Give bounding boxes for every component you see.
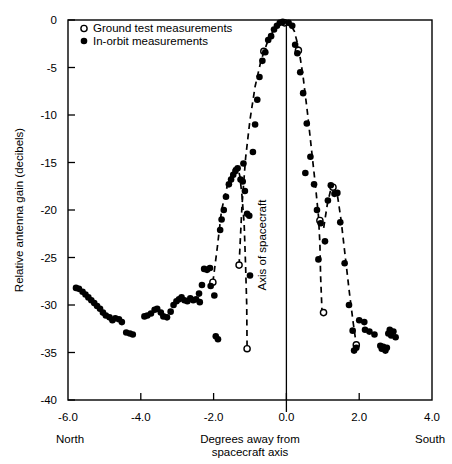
in-orbit-point — [207, 283, 214, 290]
in-orbit-point — [259, 58, 266, 65]
in-orbit-point — [303, 120, 310, 127]
y-tick-label: -25 — [40, 252, 57, 264]
chart-legend: Ground test measurementsIn-orbit measure… — [81, 22, 233, 47]
in-orbit-point — [297, 69, 304, 76]
ground-test-point — [320, 310, 326, 316]
ground-test-point — [236, 262, 242, 268]
data-points — [73, 19, 399, 354]
in-orbit-point — [240, 160, 247, 167]
in-orbit-point — [328, 182, 335, 189]
in-orbit-point — [215, 336, 222, 343]
in-orbit-point — [337, 219, 344, 226]
in-orbit-point — [234, 165, 241, 172]
in-orbit-point — [211, 292, 218, 299]
in-orbit-point — [217, 227, 224, 234]
in-orbit-point — [302, 170, 309, 177]
in-orbit-point — [262, 49, 269, 56]
in-orbit-point — [250, 149, 257, 156]
in-orbit-point — [351, 347, 358, 354]
in-orbit-point — [247, 272, 254, 279]
in-orbit-point — [346, 302, 353, 309]
in-orbit-point — [218, 216, 225, 223]
in-orbit-point — [129, 331, 136, 338]
fit-curve-segment — [213, 167, 247, 348]
y-tick-label: -40 — [40, 394, 57, 406]
x-tick-label: 0.0 — [278, 411, 294, 423]
in-orbit-point — [294, 50, 301, 57]
y-tick-label: -5 — [47, 62, 57, 74]
y-axis-tick-labels: 0-5-10-15-20-25-30-35-40 — [40, 14, 57, 406]
in-orbit-point — [315, 256, 322, 263]
ground-test-point — [244, 346, 250, 352]
in-orbit-point — [246, 212, 253, 219]
x-tick-label: 4.0 — [424, 411, 440, 423]
in-orbit-point — [119, 319, 126, 326]
plot-frame — [68, 20, 432, 400]
in-orbit-point — [256, 74, 263, 81]
in-orbit-point — [207, 265, 214, 272]
in-orbit-point — [254, 97, 261, 104]
in-orbit-point — [239, 178, 246, 185]
in-orbit-point — [314, 207, 321, 214]
in-orbit-point — [279, 19, 286, 26]
in-orbit-point — [317, 220, 324, 227]
in-orbit-point — [268, 33, 275, 40]
in-orbit-point — [196, 299, 203, 306]
in-orbit-point — [384, 344, 391, 351]
north-label: North — [56, 433, 84, 445]
x-tick-label: -4.0 — [131, 411, 151, 423]
in-orbit-point — [292, 41, 299, 48]
x-axis-title-line1: Degrees away from — [200, 433, 300, 445]
in-orbit-point — [371, 331, 378, 338]
in-orbit-point — [361, 319, 368, 326]
y-tick-label: -30 — [40, 299, 57, 311]
x-axis-title-line2: spacecraft axis — [212, 446, 289, 458]
chart-svg: 0-5-10-15-20-25-30-35-40 -6.0-4.0-2.00.0… — [0, 0, 452, 464]
antenna-gain-chart-figure: 0-5-10-15-20-25-30-35-40 -6.0-4.0-2.00.0… — [0, 0, 452, 464]
spacecraft-axis-label: Axis of spacecraft — [256, 199, 268, 291]
plot-border — [68, 20, 432, 400]
y-tick-label: -20 — [40, 204, 57, 216]
fit-curve-segment — [320, 187, 356, 345]
in-orbit-point — [196, 290, 203, 297]
in-orbit-point — [341, 260, 348, 267]
in-orbit-point — [334, 190, 341, 197]
in-orbit-point — [322, 238, 329, 245]
in-orbit-point — [242, 188, 249, 195]
legend-marker-ground-test — [81, 25, 87, 31]
legend-label-in-orbit: In-orbit measurements — [93, 35, 208, 47]
x-tick-label: -2.0 — [204, 411, 224, 423]
y-tick-label: 0 — [51, 14, 57, 26]
in-orbit-point — [164, 314, 171, 321]
y-tick-label: -15 — [40, 157, 57, 169]
in-orbit-point — [252, 121, 259, 128]
in-orbit-point — [390, 328, 397, 335]
in-orbit-point — [199, 282, 206, 289]
x-tick-label: -6.0 — [58, 411, 78, 423]
in-orbit-point — [307, 154, 314, 161]
in-orbit-point — [349, 327, 356, 334]
south-label: South — [415, 433, 445, 445]
fit-curve-segment — [239, 22, 323, 313]
y-axis-title: Relative antenna gain (decibels) — [13, 128, 25, 292]
in-orbit-point — [392, 334, 399, 341]
in-orbit-point — [220, 207, 227, 214]
legend-label-ground-test: Ground test measurements — [93, 22, 233, 34]
in-orbit-point — [300, 90, 307, 97]
x-tick-label: 2.0 — [351, 411, 367, 423]
x-axis-tick-labels: -6.0-4.0-2.00.02.04.0 — [58, 411, 440, 423]
legend-marker-in-orbit — [81, 38, 88, 45]
in-orbit-point — [223, 193, 230, 200]
in-orbit-point — [311, 181, 318, 188]
y-tick-label: -10 — [40, 109, 57, 121]
in-orbit-point — [325, 197, 332, 204]
in-orbit-point — [289, 22, 296, 29]
in-orbit-point — [167, 308, 174, 315]
y-tick-label: -35 — [40, 347, 57, 359]
